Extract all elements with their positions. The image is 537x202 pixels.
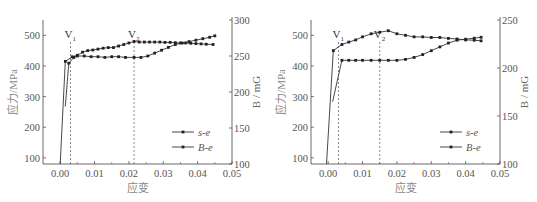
y2-tick-label: 200 <box>502 63 518 74</box>
series-B-e <box>333 36 483 102</box>
x-tick-label: 0.03 <box>154 168 172 179</box>
x-tick-label: 0.04 <box>188 168 207 179</box>
y2-tick-label: 150 <box>234 123 250 134</box>
y-axis-label: 应力/MPa <box>6 69 19 115</box>
y-tick-label: 500 <box>292 30 308 41</box>
y-tick-label: 200 <box>292 122 308 133</box>
y2-tick-label: 300 <box>234 15 250 26</box>
x-tick-label: 0.03 <box>422 168 440 179</box>
marker-label: V2 <box>374 28 386 43</box>
y2-tick-label: 250 <box>234 51 250 62</box>
series-s-e <box>327 29 483 164</box>
legend-entry: s-e <box>466 127 479 138</box>
y-axis-label: 应力/MPa <box>274 69 287 115</box>
legend-entry: B-e <box>198 142 213 153</box>
x-tick-label: 0.01 <box>353 168 371 179</box>
x-axis-label: 应变 <box>127 181 149 194</box>
y2-tick-label: 200 <box>234 87 250 98</box>
y2-tick-label: 100 <box>234 159 250 170</box>
y-tick-label: 100 <box>292 153 308 164</box>
legend: s-eB-e <box>440 127 481 153</box>
x-tick-label: 0.04 <box>456 168 475 179</box>
y-tick-label: 200 <box>24 122 40 133</box>
x-tick-label: 0.00 <box>51 168 69 179</box>
y-tick-label: 100 <box>24 153 40 164</box>
y2-tick-label: 100 <box>502 159 518 170</box>
y2-axis-label: B / mG <box>250 76 262 108</box>
x-axis-label: 应变 <box>395 181 417 194</box>
y-tick-label: 500 <box>24 30 40 41</box>
y-tick-label: 300 <box>24 92 40 103</box>
y2-tick-label: 150 <box>502 111 518 122</box>
marker-label: V1 <box>332 28 344 43</box>
chart-right: 0.000.010.020.030.040.051002003004005001… <box>268 0 536 202</box>
axes: 0.000.010.020.030.040.051002003004005001… <box>292 15 518 179</box>
x-tick-label: 0.00 <box>319 168 337 179</box>
y2-axis-label: B / mG <box>518 76 530 108</box>
series-B-e <box>65 34 216 106</box>
chart-left: 0.000.010.020.030.040.051002003004005001… <box>0 0 268 202</box>
x-tick-label: 0.02 <box>120 168 138 179</box>
legend-entry: s-e <box>198 127 211 138</box>
marker-label: V1 <box>64 28 76 43</box>
x-tick-label: 0.01 <box>85 168 103 179</box>
x-tick-label: 0.02 <box>388 168 406 179</box>
series-s-e <box>60 40 214 164</box>
legend-entry: B-e <box>466 142 481 153</box>
y-tick-label: 400 <box>24 61 40 72</box>
y2-tick-label: 250 <box>502 15 518 26</box>
y-tick-label: 300 <box>292 92 308 103</box>
y-tick-label: 400 <box>292 61 308 72</box>
legend: s-eB-e <box>172 127 213 153</box>
